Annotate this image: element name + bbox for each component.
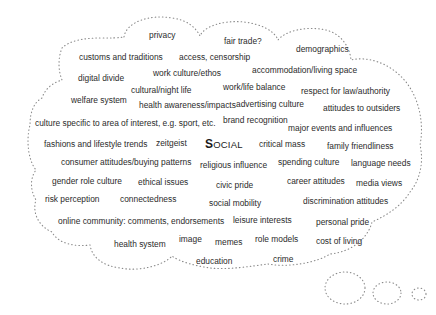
- cloud-word: critical mass: [259, 140, 305, 148]
- cloud-word: civic pride: [216, 181, 253, 189]
- cloud-word: attitudes to outsiders: [323, 104, 400, 112]
- cloud-word: media views: [356, 179, 402, 187]
- cloud-word: online community: comments, endorsements: [58, 217, 224, 225]
- bubble-large: [325, 272, 365, 304]
- cloud-word: digital divide: [78, 74, 124, 82]
- cloud-word: fashions and lifestyle trends: [44, 140, 147, 148]
- cloud-word: major events and influences: [288, 124, 392, 132]
- cloud-word: welfare system: [71, 96, 127, 104]
- cloud-word: work/life balance: [223, 83, 285, 91]
- cloud-word: gender role culture: [52, 177, 122, 185]
- cloud-word: spending culture: [278, 158, 339, 166]
- center-title-rest: OCIAL: [213, 139, 243, 150]
- cloud-word: crime: [273, 255, 293, 263]
- cloud-word: advertising culture: [236, 100, 304, 108]
- cloud-word: family friendliness: [327, 142, 394, 150]
- cloud-word: work culture/ethos: [153, 69, 221, 77]
- cloud-word: health awareness/impacts: [139, 101, 236, 109]
- center-title-first-letter: S: [205, 137, 213, 151]
- cloud-word: ethical issues: [138, 178, 188, 186]
- cloud-word: demographics: [296, 45, 349, 53]
- cloud-word: cost of living: [316, 237, 362, 245]
- cloud-word: cultural/night life: [131, 86, 192, 94]
- cloud-word: respect for law/authority: [301, 87, 390, 95]
- center-title-social: SOCIAL: [205, 138, 243, 150]
- cloud-word: fair trade?: [224, 37, 262, 45]
- cloud-word: connectedness: [120, 195, 176, 203]
- cloud-word: brand recognition: [223, 116, 288, 124]
- cloud-word: leisure interests: [233, 216, 292, 224]
- cloud-word: access, censorship: [179, 53, 250, 61]
- cloud-word: discrimination attitudes: [303, 197, 388, 205]
- bubble-small: [412, 288, 426, 300]
- cloud-word: religious influence: [200, 161, 267, 169]
- cloud-word: personal pride: [316, 218, 369, 226]
- cloud-word: accommodation/living space: [252, 66, 357, 74]
- cloud-word: education: [196, 257, 232, 265]
- social-thought-cloud-diagram: SOCIAL privacyfair trade?demographicscus…: [0, 0, 436, 315]
- cloud-word: language needs: [351, 159, 411, 167]
- cloud-word: memes: [215, 238, 242, 246]
- bubble-medium: [373, 282, 401, 304]
- cloud-word: social mobility: [209, 199, 261, 207]
- cloud-word: privacy: [149, 31, 176, 39]
- cloud-word: culture specific to area of interest, e.…: [35, 119, 216, 127]
- cloud-word: health system: [114, 240, 166, 248]
- cloud-word: customs and traditions: [79, 53, 163, 61]
- cloud-word: consumer attitudes/buying patterns: [61, 158, 191, 166]
- cloud-word: image: [179, 235, 202, 243]
- cloud-word: career attitudes: [287, 177, 345, 185]
- cloud-word: zeitgeist: [156, 139, 187, 147]
- cloud-word: role models: [255, 235, 298, 243]
- cloud-word: risk perception: [45, 195, 99, 203]
